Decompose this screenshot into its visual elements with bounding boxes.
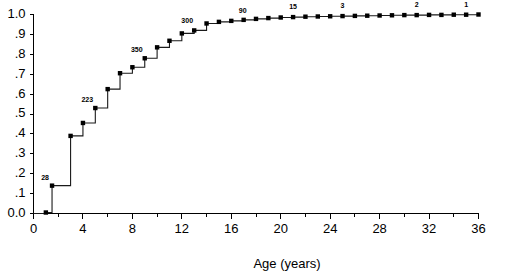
data-point-marker	[328, 14, 332, 18]
data-point-marker	[118, 71, 122, 75]
data-point-marker	[377, 13, 381, 17]
x-tick-label: 12	[175, 221, 189, 236]
data-point-marker	[204, 21, 208, 25]
x-tick-label: 32	[422, 221, 436, 236]
data-annotation-label: 300	[181, 17, 193, 24]
data-point-marker	[229, 19, 233, 23]
y-tick-label: .1	[15, 185, 26, 200]
data-point-marker	[155, 45, 159, 49]
data-point-marker	[439, 13, 443, 17]
y-tick-label: .9	[15, 26, 26, 41]
data-point-marker	[217, 20, 221, 24]
y-tick-label: .7	[15, 66, 26, 81]
data-point-marker	[353, 14, 357, 18]
series-group	[34, 12, 481, 214]
data-point-marker	[303, 14, 307, 18]
data-annotation-label: 3	[341, 2, 345, 9]
data-point-marker	[241, 18, 245, 22]
y-tick-label: .3	[15, 145, 26, 160]
y-tick-label: 1.0	[7, 6, 25, 21]
data-annotation-label: 90	[239, 7, 247, 14]
x-tick-label: 16	[224, 221, 238, 236]
data-point-marker	[68, 134, 72, 138]
data-annotation-label: 2	[415, 1, 419, 8]
x-tick-label: 4	[79, 221, 86, 236]
data-point-marker	[130, 65, 134, 69]
chart-canvas: 0.0.1.2.3.4.5.6.7.8.91.0 048121620242832…	[0, 0, 506, 278]
y-tick-label: 0.0	[7, 205, 25, 220]
data-point-marker	[93, 106, 97, 110]
data-annotations: 282233503009015321	[41, 1, 468, 181]
y-tick-label: .4	[15, 125, 26, 140]
x-tick-label: 28	[372, 221, 386, 236]
data-point-marker	[279, 15, 283, 19]
data-point-marker	[143, 56, 147, 60]
data-point-marker	[81, 121, 85, 125]
data-point-marker	[464, 13, 468, 17]
data-annotation-label: 223	[81, 96, 93, 103]
x-tick-label: 24	[323, 221, 337, 236]
x-tick-label: 36	[471, 221, 485, 236]
data-annotation-label: 28	[41, 174, 49, 181]
x-tick-label: 8	[129, 221, 136, 236]
y-axis-tick-labels: 0.0.1.2.3.4.5.6.7.8.91.0	[7, 6, 25, 220]
data-point-marker	[340, 14, 344, 18]
y-tick-label: .6	[15, 86, 26, 101]
y-tick-label: .2	[15, 165, 26, 180]
x-tick-label: 0	[30, 221, 37, 236]
x-axis-group: 04812162024283236	[30, 214, 486, 236]
data-point-marker	[414, 13, 418, 17]
x-axis-tick-labels: 04812162024283236	[30, 221, 486, 236]
y-tick-label: .8	[15, 46, 26, 61]
y-axis-group: 0.0.1.2.3.4.5.6.7.8.91.0	[7, 6, 33, 220]
y-axis-ticks	[30, 15, 34, 214]
data-annotation-label: 15	[289, 3, 297, 10]
data-point-marker	[402, 13, 406, 17]
data-point-marker	[452, 13, 456, 17]
data-point-markers	[44, 12, 481, 214]
data-point-marker	[390, 13, 394, 17]
data-annotation-label: 350	[131, 46, 143, 53]
chart-figure: 0.0.1.2.3.4.5.6.7.8.91.0 048121620242832…	[0, 0, 506, 278]
cumulative-step-curve	[34, 15, 479, 214]
data-point-marker	[291, 15, 295, 19]
data-point-marker	[192, 28, 196, 32]
data-point-marker	[365, 13, 369, 17]
data-point-marker	[167, 39, 171, 43]
data-point-marker	[44, 210, 48, 214]
y-tick-label: .5	[15, 105, 26, 120]
data-point-marker	[476, 12, 480, 16]
data-point-marker	[254, 17, 258, 21]
data-point-marker	[316, 14, 320, 18]
data-point-marker	[266, 16, 270, 20]
data-point-marker	[50, 183, 54, 187]
data-annotation-label: 1	[464, 1, 468, 8]
x-axis-title: Age (years)	[253, 256, 320, 271]
data-point-marker	[105, 87, 109, 91]
data-point-marker	[427, 13, 431, 17]
x-tick-label: 20	[273, 221, 287, 236]
data-point-marker	[180, 31, 184, 35]
